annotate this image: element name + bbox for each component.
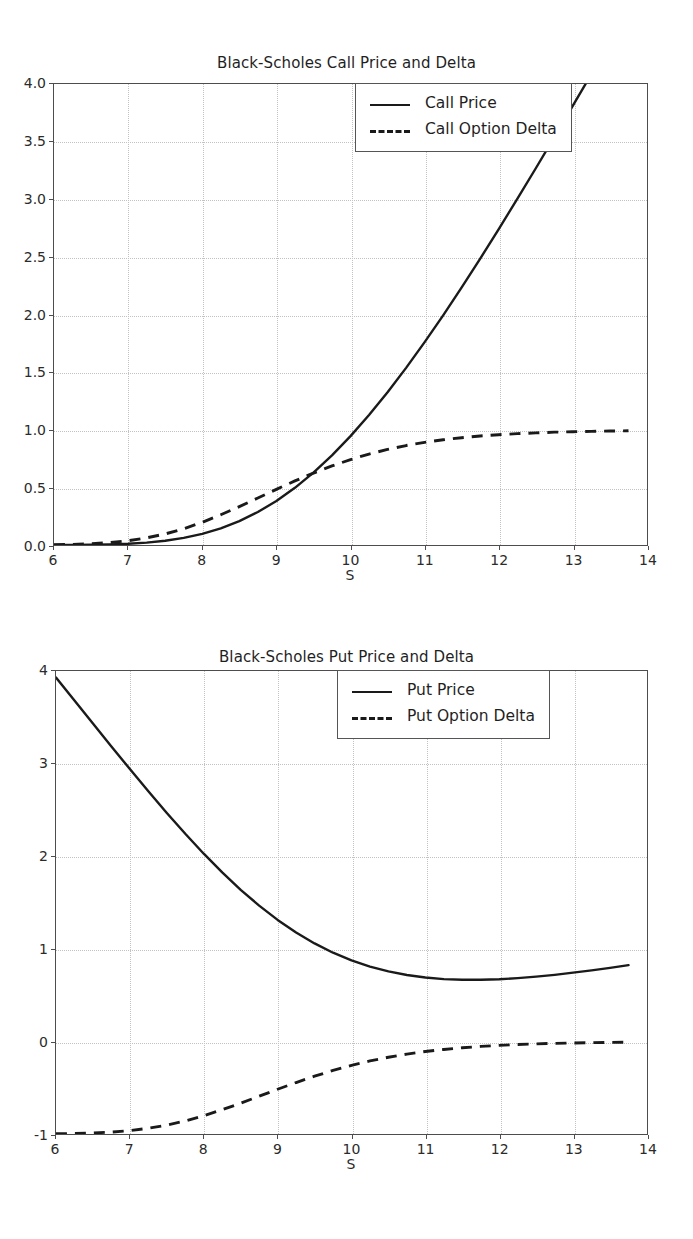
yaxis-tick-mark: [49, 546, 53, 547]
chart-title-call: Black-Scholes Call Price and Delta: [0, 54, 693, 72]
xaxis-tick-mark: [129, 1135, 130, 1139]
xaxis-tick-label: 9: [272, 552, 281, 568]
yaxis-tick-label: 3: [0, 755, 48, 771]
chart-title-put: Black-Scholes Put Price and Delta: [0, 648, 693, 666]
xaxis-tick-mark: [352, 1135, 353, 1139]
xaxis-tick-mark: [574, 1135, 575, 1139]
xaxis-tick-mark: [574, 546, 575, 550]
xaxis-tick-mark: [203, 1135, 204, 1139]
xaxis-tick-mark: [277, 1135, 278, 1139]
legend-item-put-delta: Put Option Delta: [350, 704, 535, 730]
figure-canvas: Black-Scholes Call Price and Delta 67891…: [0, 0, 693, 1239]
xaxis-tick-mark: [55, 1135, 56, 1139]
legend-call: Call Price Call Option Delta: [355, 83, 572, 152]
yaxis-tick-label: 1: [0, 941, 48, 957]
xaxis-tick-mark: [426, 1135, 427, 1139]
xaxis-tick-mark: [499, 546, 500, 550]
chart-panel-call: Black-Scholes Call Price and Delta 67891…: [0, 40, 693, 600]
yaxis-tick-label: 3.5: [0, 133, 46, 149]
xaxis-tick-mark: [351, 546, 352, 550]
yaxis-tick-label: 4.0: [0, 75, 46, 91]
xaxis-tick-label: 14: [639, 1141, 657, 1157]
legend-line-solid-icon: [350, 684, 394, 698]
xaxis-tick-label: 10: [343, 1141, 361, 1157]
xaxis-tick-label: 6: [49, 552, 58, 568]
curves-put: [56, 671, 647, 1134]
xaxis-tick-label: 7: [123, 552, 132, 568]
yaxis-tick-mark: [51, 1135, 55, 1136]
xaxis-tick-label: 8: [197, 552, 206, 568]
yaxis-tick-mark: [51, 1042, 55, 1043]
yaxis-tick-label: 3.0: [0, 191, 46, 207]
legend-line-solid-icon: [368, 97, 412, 111]
yaxis-tick-mark: [51, 856, 55, 857]
yaxis-tick-label: 0.0: [0, 538, 46, 554]
yaxis-tick-mark: [49, 83, 53, 84]
curve-call-option-delta: [54, 431, 628, 545]
yaxis-tick-mark: [51, 670, 55, 671]
legend-label-put-delta: Put Option Delta: [407, 709, 535, 725]
xaxis-tick-label: 12: [490, 552, 508, 568]
yaxis-tick-mark: [49, 488, 53, 489]
xaxis-tick-label: 11: [416, 552, 434, 568]
legend-item-call-delta: Call Option Delta: [368, 117, 557, 143]
xaxis-tick-mark: [276, 546, 277, 550]
legend-item-call-price: Call Price: [368, 91, 557, 117]
xaxis-tick-mark: [648, 546, 649, 550]
yaxis-tick-mark: [49, 141, 53, 142]
yaxis-tick-label: 1.0: [0, 422, 46, 438]
legend-line-dashed-icon: [350, 710, 394, 724]
xaxis-tick-label: 6: [51, 1141, 60, 1157]
yaxis-tick-mark: [51, 763, 55, 764]
yaxis-tick-mark: [49, 372, 53, 373]
xaxis-label-call: S: [346, 567, 355, 583]
xaxis-tick-label: 11: [417, 1141, 435, 1157]
xaxis-tick-mark: [202, 546, 203, 550]
yaxis-tick-mark: [49, 199, 53, 200]
yaxis-tick-mark: [49, 430, 53, 431]
yaxis-tick-label: 4: [0, 662, 48, 678]
curve-put-option-delta: [56, 1042, 629, 1134]
xaxis-tick-label: 13: [565, 1141, 583, 1157]
yaxis-tick-mark: [49, 257, 53, 258]
chart-panel-put: Black-Scholes Put Price and Delta 678910…: [0, 630, 693, 1170]
yaxis-tick-label: 2.5: [0, 249, 46, 265]
plot-area-call: [53, 83, 648, 546]
xaxis-tick-mark: [425, 546, 426, 550]
xaxis-tick-mark: [500, 1135, 501, 1139]
xaxis-tick-mark: [53, 546, 54, 550]
legend-item-put-price: Put Price: [350, 678, 535, 704]
yaxis-tick-label: 1.5: [0, 364, 46, 380]
yaxis-tick-label: 0: [0, 1034, 48, 1050]
xaxis-tick-label: 10: [342, 552, 360, 568]
yaxis-tick-mark: [51, 949, 55, 950]
legend-line-dashed-icon: [368, 123, 412, 137]
legend-label-call-delta: Call Option Delta: [425, 122, 557, 138]
yaxis-tick-mark: [49, 315, 53, 316]
xaxis-tick-label: 8: [199, 1141, 208, 1157]
xaxis-tick-label: 13: [565, 552, 583, 568]
legend-label-put-price: Put Price: [407, 683, 475, 699]
xaxis-label-put: S: [347, 1156, 356, 1172]
curve-call-price: [54, 83, 628, 545]
xaxis-tick-mark: [127, 546, 128, 550]
legend-label-call-price: Call Price: [425, 96, 497, 112]
curves-call: [54, 84, 647, 545]
yaxis-tick-label: -1: [0, 1127, 48, 1143]
xaxis-tick-label: 12: [491, 1141, 509, 1157]
legend-put: Put Price Put Option Delta: [337, 670, 550, 739]
xaxis-tick-mark: [648, 1135, 649, 1139]
xaxis-tick-label: 14: [639, 552, 657, 568]
xaxis-tick-label: 9: [273, 1141, 282, 1157]
xaxis-tick-label: 7: [125, 1141, 134, 1157]
yaxis-tick-label: 2: [0, 848, 48, 864]
plot-area-put: [55, 670, 648, 1135]
yaxis-tick-label: 2.0: [0, 307, 46, 323]
yaxis-tick-label: 0.5: [0, 480, 46, 496]
